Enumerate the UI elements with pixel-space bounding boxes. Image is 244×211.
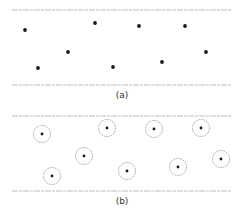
point-dot xyxy=(51,175,54,178)
point-dot xyxy=(126,170,129,173)
point-dot xyxy=(183,24,187,28)
point-dot xyxy=(137,24,141,28)
point-dot xyxy=(66,50,70,54)
point-dot xyxy=(220,158,223,161)
figure: (a)(b) xyxy=(0,0,244,211)
point-dot xyxy=(160,60,164,64)
point-dot xyxy=(111,65,115,69)
point-dot xyxy=(177,166,180,169)
point-dot xyxy=(41,133,44,136)
point-dot xyxy=(83,155,86,158)
point-dot xyxy=(200,127,203,130)
point-dot xyxy=(93,21,97,25)
point-dot xyxy=(36,66,40,70)
panel-a-caption: (a) xyxy=(116,90,129,100)
point-dot xyxy=(204,50,208,54)
panel-b-caption: (b) xyxy=(116,196,129,206)
point-dot xyxy=(153,128,156,131)
point-dot xyxy=(106,127,109,130)
point-dot xyxy=(23,28,27,32)
